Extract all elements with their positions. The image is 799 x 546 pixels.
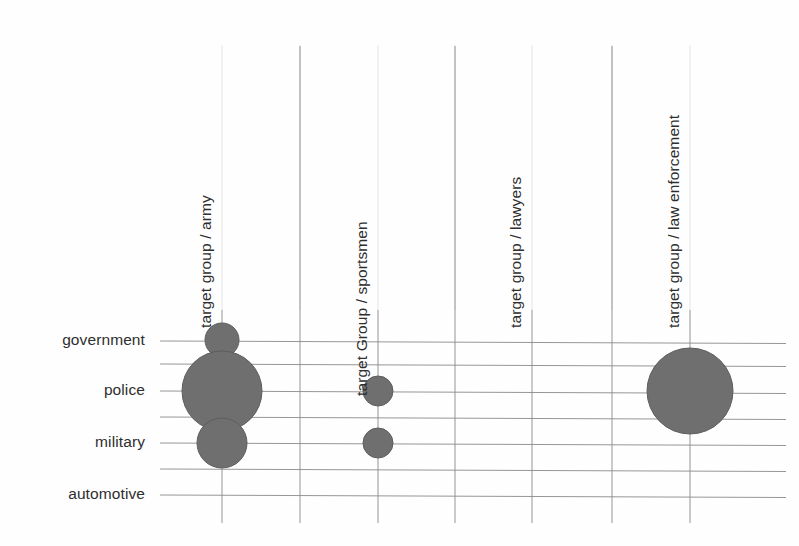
column-label-law-enforcement: target group / law enforcement (665, 115, 683, 328)
axis-label-police: police (0, 381, 145, 399)
column-label-lawyers: target group / lawyers (507, 177, 525, 328)
axis-label-military: military (0, 433, 145, 451)
bubble-target-group-army-military (197, 418, 247, 468)
bubble-target-group-sportsmen-military (363, 428, 393, 458)
axis-label-automotive: automotive (0, 485, 145, 503)
bubble-chart: government police military automotive ta… (0, 0, 799, 546)
bubble-target-group-law-enforcement-police (647, 348, 733, 434)
axis-label-government: government (0, 331, 145, 349)
column-label-sportsmen: target Group / sportsmen (353, 221, 371, 396)
column-label-army: target group / army (197, 195, 215, 328)
